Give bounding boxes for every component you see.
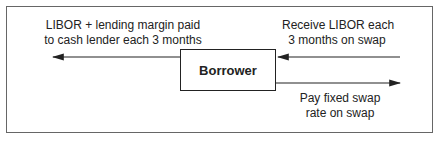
left-label-line2: to cash lender each 3 months <box>38 33 208 48</box>
right-top-label-line2: 3 months on swap <box>282 33 392 48</box>
right-bottom-label-line2: rate on swap <box>290 106 390 121</box>
borrower-node: Borrower <box>180 49 276 91</box>
right-top-label-line1: Receive LIBOR each <box>282 18 392 33</box>
right-bottom-label-line1: Pay fixed swap <box>290 91 390 106</box>
left-label: LIBOR + lending margin paid to cash lend… <box>38 18 208 48</box>
right-bottom-label: Pay fixed swap rate on swap <box>290 91 390 121</box>
left-label-line1: LIBOR + lending margin paid <box>38 18 208 33</box>
right-top-label: Receive LIBOR each 3 months on swap <box>282 18 392 48</box>
